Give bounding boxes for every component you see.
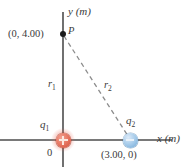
- r1-label: r1: [48, 79, 56, 92]
- r2-dashed-line: [64, 36, 128, 136]
- point-p-label: P: [68, 26, 74, 37]
- charge2-label: q2: [126, 115, 135, 129]
- charge2-coordinates-label: (3.00, 0): [101, 150, 137, 161]
- negative-charge-q2: [123, 133, 138, 148]
- positive-charge-q1: [56, 133, 71, 148]
- electric-field-diagram: y (m) x (m) P (0, 4.00) r1 r2 q1 q2 0 (3…: [0, 0, 187, 167]
- x-axis-label: x (m): [157, 133, 180, 144]
- charge1-label: q1: [40, 119, 49, 133]
- r2-label: r2: [104, 80, 112, 93]
- y-axis-label: y (m): [68, 6, 91, 17]
- point-p-coordinates-label: (0, 4.00): [8, 29, 44, 40]
- point-p-marker: [60, 31, 66, 37]
- origin-label: 0: [47, 148, 52, 159]
